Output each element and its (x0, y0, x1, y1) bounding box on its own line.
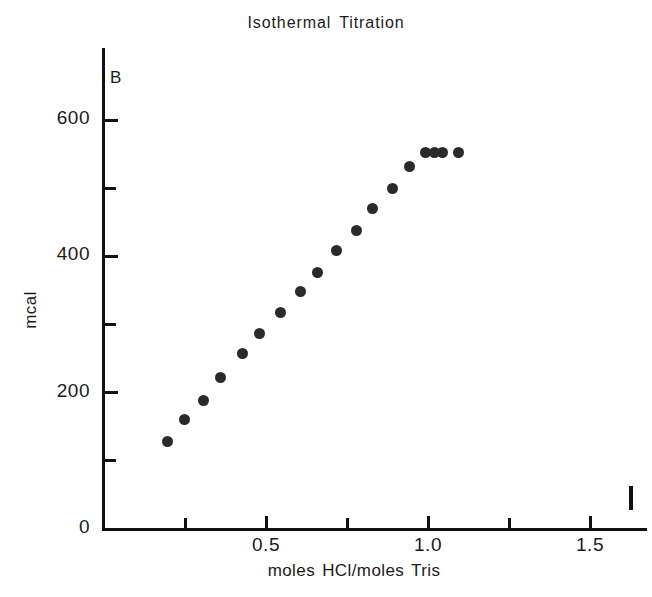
isothermal-titration-figure: Isothermal Titration B mcal moles HCl/mo… (0, 0, 652, 597)
data-point (312, 267, 323, 278)
y-axis-tick-minor (105, 323, 116, 326)
data-point (367, 203, 378, 214)
data-point (331, 245, 342, 256)
data-point (275, 307, 286, 318)
y-axis-tick-major (105, 255, 118, 258)
x-axis-tick-major (589, 516, 592, 529)
y-axis-tick-label: 200 (28, 380, 90, 402)
data-point (237, 348, 248, 359)
data-point (437, 147, 448, 158)
x-axis-tick-major (265, 516, 268, 529)
x-axis-tick-major (427, 516, 430, 529)
data-point (295, 286, 306, 297)
data-point (254, 328, 265, 339)
y-axis-tick-label: 400 (28, 243, 90, 265)
data-point (387, 183, 398, 194)
y-axis-tick-minor (105, 187, 116, 190)
data-point (179, 414, 190, 425)
axis-end-marker-icon (629, 486, 633, 510)
y-axis-tick-minor (105, 459, 116, 462)
x-axis-tick-minor (508, 518, 511, 529)
x-axis-tick-label: 1.5 (560, 534, 620, 556)
data-point (453, 147, 464, 158)
x-axis-tick-label: 1.0 (398, 534, 458, 556)
y-axis-tick-label: 600 (28, 107, 90, 129)
data-point (404, 161, 415, 172)
data-point (351, 225, 362, 236)
x-axis-tick-label: 0.5 (236, 534, 296, 556)
y-axis-tick-label: 0 (28, 516, 90, 538)
data-point (198, 395, 209, 406)
data-point (162, 436, 173, 447)
y-axis-tick-major (105, 119, 118, 122)
y-axis-tick-major (105, 391, 118, 394)
x-axis-title: moles HCl/moles Tris (104, 561, 604, 581)
y-axis-title: mcal (21, 265, 41, 355)
x-axis-tick-minor (346, 518, 349, 529)
panel-label: B (110, 68, 121, 88)
data-point (215, 372, 226, 383)
chart-title: Isothermal Titration (0, 14, 652, 32)
x-axis-tick-minor (184, 518, 187, 529)
